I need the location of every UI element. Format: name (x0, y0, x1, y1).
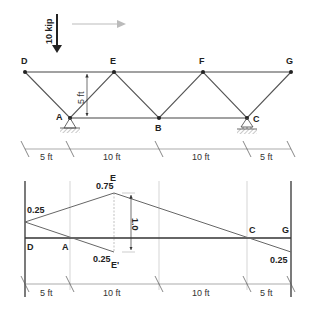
value-g: 0.25 (270, 255, 288, 265)
node-label-e: E (110, 56, 116, 66)
value-d: 0.25 (27, 205, 45, 215)
right-arrow-icon (72, 20, 126, 28)
top-dim-2: 10 ft (103, 152, 121, 162)
bottom-dim-1: 5 ft (40, 288, 53, 298)
load-label: 10 kip (44, 18, 54, 44)
top-dim-3: 10 ft (192, 152, 210, 162)
label-a: A (62, 242, 69, 252)
value-e-prime: 0.25 (93, 254, 111, 264)
jump-label: 1.0 (130, 218, 140, 231)
node-b (157, 116, 161, 120)
influence-lower-line (25, 222, 114, 252)
truss-influence-line-diagram: 10 kip D E F G A B C 5 ft (0, 0, 309, 316)
node-label-a: A (56, 112, 63, 122)
label-d: D (27, 242, 34, 252)
top-dimension-line (21, 141, 295, 157)
bottom-dim-2: 10 ft (103, 288, 121, 298)
node-label-c: C (253, 114, 260, 124)
node-label-d: D (21, 56, 28, 66)
node-f (201, 70, 205, 74)
node-g (289, 70, 293, 74)
bottom-dim-4: 5 ft (260, 288, 273, 298)
node-e (112, 70, 116, 74)
label-e: E (110, 173, 116, 183)
bottom-dim-3: 10 ft (192, 288, 210, 298)
node-label-b: B (155, 123, 162, 133)
node-label-f: F (199, 56, 205, 66)
influence-line (25, 181, 291, 297)
web-members (25, 72, 291, 118)
label-e-prime: E' (111, 260, 119, 270)
label-c: C (249, 225, 256, 235)
height-label: 5 ft (76, 91, 86, 104)
top-dim-1: 5 ft (40, 152, 53, 162)
bottom-dimension-line (21, 276, 295, 292)
label-g: G (282, 225, 289, 235)
top-dim-4: 5 ft (260, 152, 273, 162)
pin-support-a (60, 118, 80, 133)
node-label-g: G (286, 56, 293, 66)
truss (23, 70, 293, 120)
node-d (23, 70, 27, 74)
